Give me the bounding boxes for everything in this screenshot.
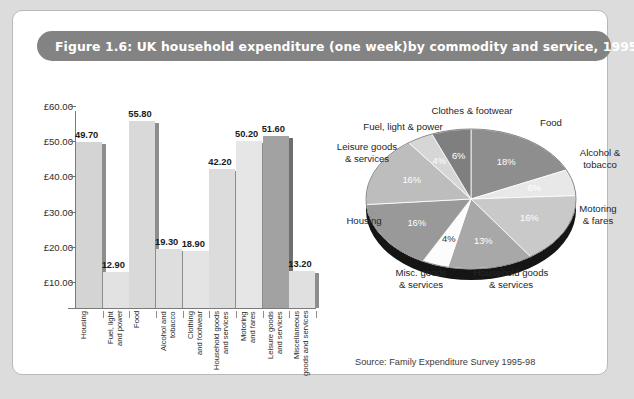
bar-chart: £10.00£20.00£30.00£40.00£50.00£60.00 49.… bbox=[35, 99, 325, 384]
bar-chart-plot-area: 49.7012.9055.8019.3018.9042.2050.2051.60… bbox=[76, 99, 316, 308]
pie-category-label: Fuel, light & power bbox=[351, 121, 455, 133]
bar-face bbox=[129, 121, 155, 308]
x-tick-label: Leisure goods and services bbox=[266, 311, 289, 381]
x-tick-separator bbox=[103, 311, 104, 318]
pie-category-label: Motoring & fares bbox=[567, 203, 629, 226]
pie-slice-percent: 6% bbox=[452, 150, 466, 161]
y-tick-label: £30.00 bbox=[44, 206, 73, 217]
figure-root: Figure 1.6: UK household expenditure (on… bbox=[0, 0, 634, 399]
pie-slice-percent: 6% bbox=[527, 182, 541, 193]
pie-category-label: Household goods & services bbox=[461, 267, 561, 290]
pie-category-label: Alcohol & tobacco bbox=[569, 147, 631, 170]
pie-slice-percent: 4% bbox=[433, 155, 447, 166]
y-tick-label: £40.00 bbox=[44, 171, 73, 182]
pie-category-label: Leisure goods & services bbox=[325, 141, 409, 164]
bar-face bbox=[289, 271, 315, 308]
x-tick-separator bbox=[129, 311, 130, 318]
pie-category-label: Clothes & footwear bbox=[413, 105, 531, 117]
bar bbox=[76, 142, 102, 308]
bar-value-label: 19.30 bbox=[155, 237, 178, 247]
figure-title-bar: Figure 1.6: UK household expenditure (on… bbox=[37, 31, 611, 61]
bar-face bbox=[183, 251, 209, 308]
figure-page-panel: Figure 1.6: UK household expenditure (on… bbox=[12, 10, 608, 375]
x-tick-label: Food bbox=[132, 311, 155, 381]
y-tick-label: £50.00 bbox=[44, 136, 73, 147]
bar bbox=[236, 141, 262, 308]
x-tick-separator bbox=[316, 311, 317, 318]
pie-chart: 18%6%16%13%4%16%16%4%6% FoodAlcohol & to… bbox=[331, 99, 631, 384]
bar bbox=[289, 271, 315, 308]
bar-value-label: 51.60 bbox=[262, 124, 285, 134]
source-note: Source: Family Expenditure Survey 1995-9… bbox=[355, 357, 535, 367]
x-tick-label: Fuel, light and power bbox=[106, 311, 129, 381]
figure-title: Figure 1.6: UK household expenditure (on… bbox=[55, 39, 634, 54]
bar-value-label: 13.20 bbox=[288, 259, 311, 269]
bar bbox=[209, 169, 235, 308]
pie-category-label: Housing bbox=[333, 215, 395, 227]
bar-face bbox=[209, 169, 235, 308]
bar-face bbox=[263, 136, 289, 308]
x-tick-separator bbox=[183, 311, 184, 318]
bar-value-label: 18.90 bbox=[182, 239, 205, 249]
bar-value-label: 12.90 bbox=[102, 260, 125, 270]
x-tick-label: Clothing and footwear bbox=[186, 311, 209, 381]
pie-slice-percent: 18% bbox=[497, 156, 516, 167]
bar-value-label: 42.20 bbox=[208, 157, 231, 167]
pie-slice-percent: 13% bbox=[474, 235, 493, 246]
y-tick-label: £10.00 bbox=[44, 277, 73, 288]
bar-chart-x-axis bbox=[68, 308, 316, 309]
pie-slice-percent: 16% bbox=[407, 217, 426, 228]
bar bbox=[263, 136, 289, 308]
pie-slice-percent: 16% bbox=[520, 212, 539, 223]
x-tick-label: Alcohol and tobacco bbox=[159, 311, 182, 381]
pie-category-label: Misc. goods & services bbox=[379, 267, 463, 290]
bar bbox=[183, 251, 209, 308]
x-tick-separator bbox=[263, 311, 264, 318]
x-tick-separator bbox=[236, 311, 237, 318]
x-tick-separator bbox=[209, 311, 210, 318]
bar-side-face bbox=[315, 273, 319, 308]
bar-face bbox=[103, 272, 129, 308]
bar-value-label: 49.70 bbox=[75, 130, 98, 140]
pie-category-label: Food bbox=[516, 117, 586, 129]
bar-face bbox=[76, 142, 102, 308]
bar-value-label: 50.20 bbox=[235, 129, 258, 139]
pie-slice-percent: 16% bbox=[402, 174, 421, 185]
bar-face bbox=[156, 249, 182, 308]
x-tick-label: Household goods and services bbox=[212, 311, 235, 381]
y-tick-label: £60.00 bbox=[44, 101, 73, 112]
x-tick-separator bbox=[156, 311, 157, 318]
pie-slice-percent: 4% bbox=[442, 233, 456, 244]
y-tick-label: £20.00 bbox=[44, 241, 73, 252]
bar-value-label: 55.80 bbox=[128, 109, 151, 119]
x-tick-separator bbox=[289, 311, 290, 318]
bar bbox=[156, 249, 182, 308]
bar-chart-x-tick-labels: HousingFuel, light and powerFoodAlcohol … bbox=[76, 311, 316, 383]
x-tick-label: Housing bbox=[79, 311, 102, 381]
bar-face bbox=[236, 141, 262, 308]
x-tick-label: Miscellaneous goods and services bbox=[292, 311, 315, 381]
bar bbox=[103, 272, 129, 308]
x-tick-label: Motoring and fares bbox=[239, 311, 262, 381]
bar bbox=[129, 121, 155, 308]
